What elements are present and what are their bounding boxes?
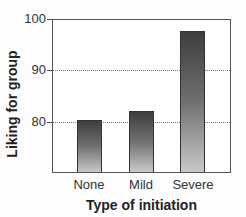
x-tick-label-severe: Severe: [163, 178, 223, 192]
bar-none: [77, 120, 102, 172]
bar-chart: Liking for group 100 90 80 None Mild Sev…: [0, 0, 246, 217]
y-tick-label-100: 100: [16, 12, 46, 26]
x-tick-label-none: None: [59, 178, 119, 192]
bar-mild: [129, 111, 154, 172]
x-axis-label: Type of initiation: [52, 197, 231, 213]
x-tick-label-mild: Mild: [111, 178, 171, 192]
bar-severe: [180, 31, 205, 172]
y-tick-90: [47, 70, 53, 71]
y-tick-label-90: 90: [16, 63, 46, 77]
y-tick-80: [47, 122, 53, 123]
y-tick-label-80: 80: [16, 115, 46, 129]
y-tick-100: [47, 19, 53, 20]
y-axis-label: Liking for group: [4, 44, 20, 164]
plot-area: [52, 19, 231, 173]
